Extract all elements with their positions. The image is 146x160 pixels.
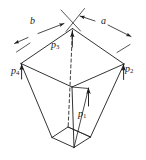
load-label-p1-sub: 1 (83, 112, 86, 119)
top-edge-back-right (73, 29, 125, 65)
dim-b-arrow-left (15, 38, 29, 44)
load-label-p1: p1 (78, 109, 86, 120)
load-label-p2-sub: 2 (130, 67, 133, 74)
side-edge-right (91, 64, 125, 137)
ext-line-left (17, 43, 31, 52)
dim-b-arrow-right (38, 24, 64, 34)
top-edge-front-right (72, 64, 124, 87)
top-edge-back-left (21, 29, 73, 64)
top-edge-front-left (21, 64, 72, 88)
side-edge-left (21, 64, 52, 138)
load-label-p3: p3 (51, 40, 59, 51)
tapered-side-edges (21, 64, 124, 148)
side-edge-front (72, 87, 74, 148)
base-hidden-edge (68, 127, 91, 137)
load-label-p3-sub: 3 (56, 43, 59, 50)
ext-line-apex-left (61, 10, 81, 31)
dimension-label-a: a (101, 16, 106, 26)
bottom-face-outline (52, 127, 91, 148)
dimension-label-b: b (30, 16, 35, 26)
load-label-p2: p2 (125, 64, 133, 75)
load-label-p4-sub: 4 (16, 69, 19, 76)
ext-line-apex-right (66, 9, 85, 32)
ext-line-right (117, 45, 130, 53)
base-edge-front-left (52, 138, 74, 148)
base-edge-back-left (52, 127, 68, 138)
load-label-p4: p4 (11, 66, 19, 77)
dim-a-arrow-left (80, 16, 95, 21)
diagram-canvas (0, 0, 146, 160)
dim-a-arrow-right (108, 25, 131, 37)
figure-container: b a p3 p4 p2 p1 (0, 0, 146, 160)
fold-line-top (72, 87, 89, 89)
